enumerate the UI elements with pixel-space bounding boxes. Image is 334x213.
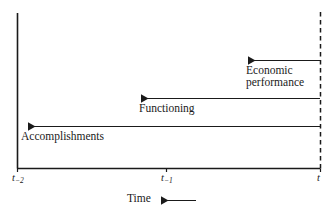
right-arrow-icon	[156, 194, 198, 203]
x-axis-title-text: Time	[127, 192, 151, 204]
axis-tick-label-t-minus-2: t−2	[12, 172, 24, 185]
x-axis-title: Time	[127, 192, 198, 204]
axis-tick-label-t-minus-1: t−1	[161, 172, 173, 185]
arrow-label-functioning: Functioning	[139, 102, 195, 114]
arrow-label-functioning-line-1: Functioning	[139, 102, 195, 114]
axis-tick-label-t: t	[317, 172, 320, 183]
tick-sub-t-minus-1: −1	[164, 176, 173, 185]
arrow-label-accomplishments-line-1: Accomplishments	[21, 130, 104, 142]
timeline-diagram-figure: Economic performance Functioning Accompl…	[0, 0, 334, 213]
arrow-label-accomplishments: Accomplishments	[21, 130, 104, 142]
tick-base-t: t	[317, 172, 320, 183]
arrow-label-economic-performance-line-1: Economic	[246, 64, 304, 76]
tick-sub-t-minus-2: −2	[15, 176, 24, 185]
arrow-label-economic-performance-line-2: performance	[246, 76, 304, 88]
arrow-label-economic-performance: Economic performance	[246, 64, 304, 89]
